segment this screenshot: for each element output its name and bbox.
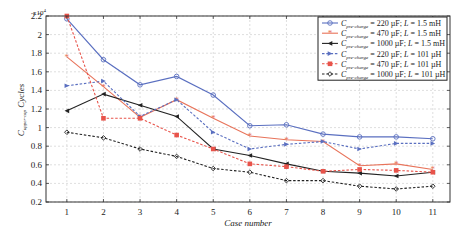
- y-tick-label: 1.2: [31, 104, 42, 114]
- y-axis-label: Cupper-cap Cycles: [16, 83, 27, 136]
- x-tick-label: 10: [392, 207, 402, 217]
- y-tick-label: 0.8: [31, 141, 43, 151]
- legend: Cpre-charge = 220 µF; L = 1.5 mH*Cpre-ch…: [318, 17, 447, 80]
- x-tick-label: 9: [357, 207, 362, 217]
- x-tick-label: 11: [428, 207, 437, 217]
- x-axis-label: Case number: [224, 218, 272, 228]
- x-tick-label: 6: [248, 207, 253, 217]
- svg-text:*: *: [328, 28, 333, 38]
- legend-item: Cpre-charge = 1000 µF; L = 1.5 mH: [322, 39, 445, 49]
- y-tick-label: 2: [38, 30, 43, 40]
- x-tick-label: 4: [174, 207, 179, 217]
- y-tick-label: 0.6: [31, 160, 43, 170]
- line-chart: *********** 0.20.40.60.811.21.41.61.822.…: [0, 0, 467, 237]
- legend-item: Cpre-charge = 1000 µF; L = 101 µH: [322, 70, 446, 80]
- x-tick-label: 7: [284, 207, 289, 217]
- x-tick-label: 5: [211, 207, 216, 217]
- svg-text:*: *: [65, 52, 70, 62]
- y-tick-label: 1: [38, 123, 43, 133]
- y-tick-label: 1.6: [31, 67, 43, 77]
- y-tick-label: 0.2: [31, 197, 42, 207]
- x-tick-label: 8: [321, 207, 326, 217]
- y-tick-label: 0.4: [31, 178, 43, 188]
- y-tick-label: 1.4: [31, 85, 43, 95]
- svg-text:*: *: [211, 113, 216, 123]
- x-tick-label: 2: [101, 207, 106, 217]
- svg-text:*: *: [394, 159, 399, 169]
- svg-text:*: *: [248, 131, 253, 141]
- x-tick-label: 1: [65, 207, 70, 217]
- y-multiplier: x104: [33, 8, 47, 17]
- y-tick-label: 1.8: [31, 48, 43, 58]
- x-tick-label: 3: [138, 207, 143, 217]
